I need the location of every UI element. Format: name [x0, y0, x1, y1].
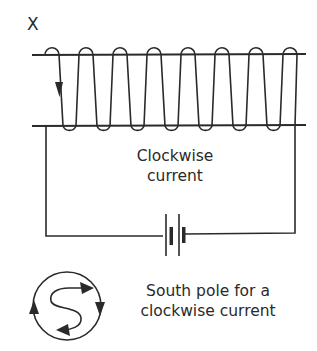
pole-caption-line2: clockwise current — [123, 301, 293, 321]
coil-turn — [249, 48, 283, 131]
coil-turn — [79, 48, 113, 131]
circuit-label-line1: Clockwise — [120, 146, 230, 166]
coil-turn — [45, 48, 79, 131]
end-x-label: X — [27, 14, 39, 34]
pole-caption-line1: South pole for a — [123, 281, 293, 301]
south-pole-icon — [29, 272, 105, 340]
circuit-label-line2: current — [120, 166, 230, 186]
bottom-rail — [32, 125, 306, 126]
clockwise-current-label: Clockwise current — [120, 146, 230, 186]
top-rail — [32, 54, 306, 55]
solenoid-diagram: X Clockwise current South pole for a clo… — [0, 0, 317, 351]
solenoid-coil — [45, 48, 297, 131]
coil-turn — [283, 48, 297, 126]
coil-turn — [147, 48, 181, 131]
coil-turn — [181, 48, 215, 131]
pole-caption: South pole for a clockwise current — [123, 281, 293, 321]
battery-icon — [166, 214, 186, 256]
coil-turn — [215, 48, 249, 131]
coil-turn — [113, 48, 147, 131]
